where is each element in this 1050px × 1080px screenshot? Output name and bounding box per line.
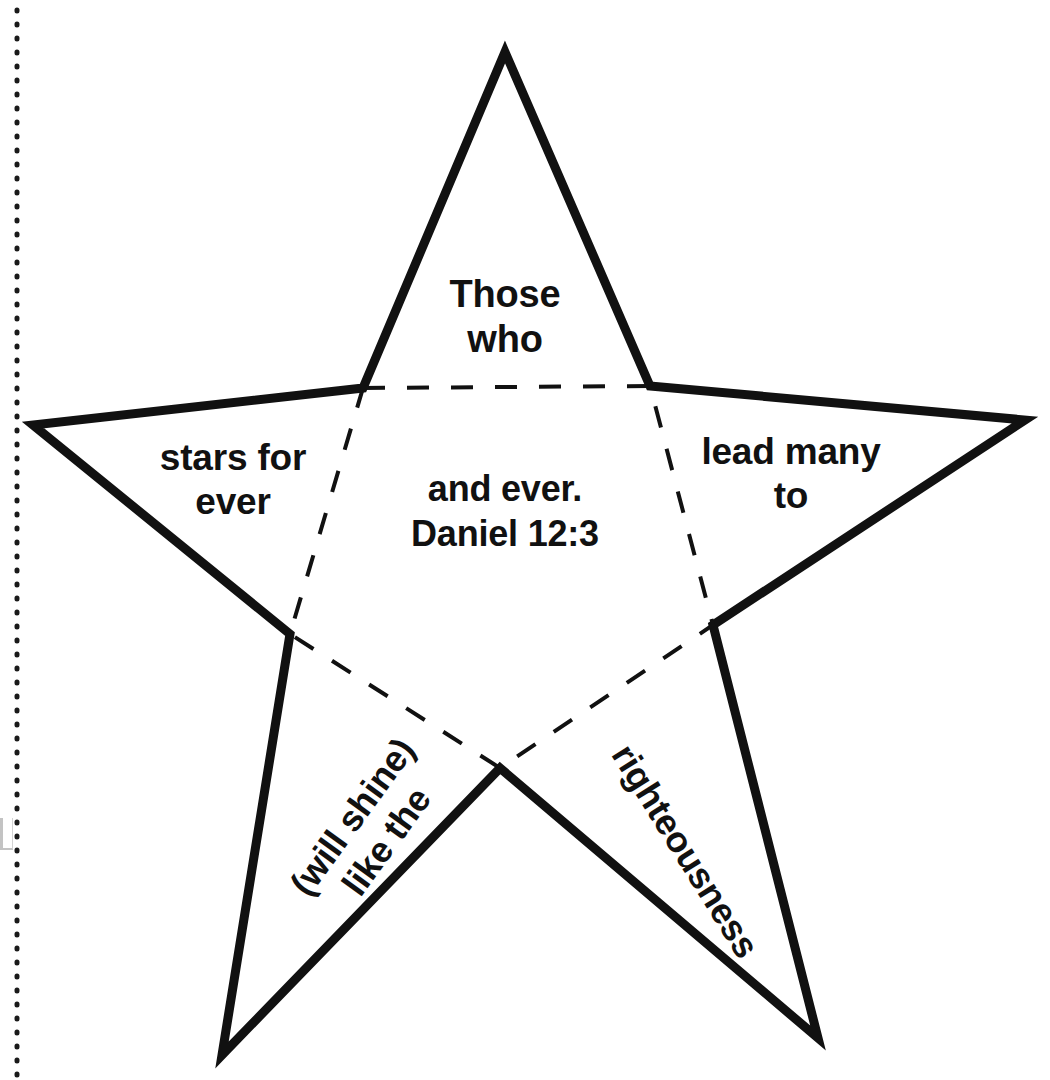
star-template-page: Those who stars for ever lead many to an…	[0, 0, 1050, 1080]
star-point-label-top: Those who	[380, 272, 630, 362]
page-scan-artifact	[0, 818, 13, 850]
star-center-label-reference: and ever. Daniel 12:3	[370, 467, 640, 556]
star-point-label-left: stars for ever	[108, 436, 358, 523]
star-point-label-right: lead many to	[666, 430, 916, 517]
